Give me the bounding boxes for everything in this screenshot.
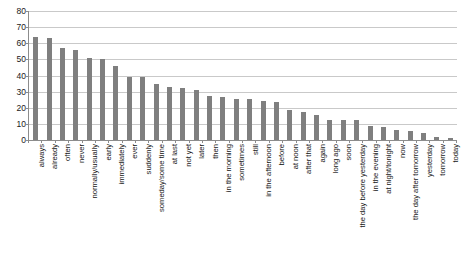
x-axis-label: normally/usually <box>91 144 99 198</box>
x-axis-label: in the afternoon <box>265 144 273 197</box>
bar <box>140 77 145 140</box>
bar <box>354 120 359 140</box>
x-axis-label: someday/some time <box>158 144 166 212</box>
bar <box>47 38 52 140</box>
x-axis-label: often <box>64 144 72 161</box>
x-tickmark <box>282 140 283 143</box>
bar <box>408 131 413 140</box>
x-axis-label: never <box>78 144 86 163</box>
x-tickmark <box>429 140 430 143</box>
x-axis-label: in the evening <box>372 144 380 191</box>
x-axis-label: today <box>452 144 460 163</box>
x-tickmark <box>28 140 29 143</box>
x-axis-label: sometimes <box>238 144 246 181</box>
bar <box>368 126 373 140</box>
bar <box>394 130 399 140</box>
bar <box>234 99 239 140</box>
y-axis-tick-labels: 01020304050607080 <box>0 11 26 140</box>
x-tickmark <box>403 140 404 143</box>
x-axis-label: long ago <box>332 144 340 173</box>
bars-layer <box>29 11 457 140</box>
x-axis-label: still <box>252 144 260 155</box>
x-axis-label: ever <box>131 144 139 159</box>
x-tickmark <box>55 140 56 143</box>
y-tick-label-50: 50 <box>0 55 26 64</box>
bar <box>73 50 78 140</box>
bar <box>167 87 172 140</box>
x-tickmark <box>162 140 163 143</box>
x-tickmark <box>242 140 243 143</box>
x-tickmark <box>41 140 42 143</box>
bar <box>180 88 185 140</box>
y-tick-label-30: 30 <box>0 88 26 97</box>
x-tickmark <box>389 140 390 143</box>
x-tickmark <box>376 140 377 143</box>
bar <box>154 84 159 140</box>
bar <box>207 96 212 140</box>
bar <box>261 101 266 140</box>
y-tick-label-20: 20 <box>0 104 26 113</box>
x-tickmark <box>82 140 83 143</box>
x-axis-label: then <box>212 144 220 159</box>
x-tickmark <box>362 140 363 143</box>
x-tickmark <box>95 140 96 143</box>
bar <box>60 48 65 140</box>
x-axis-label: again <box>319 144 327 163</box>
x-axis-label: in the morning <box>225 144 233 192</box>
bar <box>421 133 426 140</box>
x-tickmark <box>68 140 69 143</box>
y-tick-label-40: 40 <box>0 72 26 81</box>
y-tick-label-10: 10 <box>0 120 26 129</box>
bar <box>327 120 332 140</box>
bar <box>113 66 118 140</box>
x-tickmark <box>269 140 270 143</box>
x-tickmark <box>108 140 109 143</box>
bar <box>33 37 38 140</box>
x-tickmark <box>336 140 337 143</box>
bar <box>287 110 292 140</box>
chart-plot-wrapper: 01020304050607080 alwaysalreadyoftenneve… <box>0 0 466 261</box>
x-axis-label: early <box>105 144 113 160</box>
y-tick-label-0: 0 <box>0 136 26 145</box>
plot-area <box>28 11 457 140</box>
x-tickmark <box>443 140 444 143</box>
x-axis-label: not yet <box>185 144 193 167</box>
x-tickmark <box>148 140 149 143</box>
x-axis-label: after that <box>305 144 313 174</box>
x-tickmark <box>322 140 323 143</box>
bar <box>127 77 132 140</box>
bar <box>247 99 252 140</box>
bar <box>381 127 386 140</box>
x-axis-label: tomorrow <box>439 144 447 176</box>
x-tickmark <box>215 140 216 143</box>
x-axis-label: before <box>278 144 286 166</box>
x-tickmark <box>416 140 417 143</box>
bar <box>220 97 225 140</box>
bar <box>194 90 199 140</box>
x-tickmark <box>135 140 136 143</box>
bar <box>314 115 319 140</box>
x-tickmark <box>309 140 310 143</box>
x-axis-label: yesterday <box>426 144 434 177</box>
bar <box>100 59 105 140</box>
y-tick-label-80: 80 <box>0 7 26 16</box>
x-axis-label: suddenly <box>145 144 153 174</box>
x-tickmark <box>202 140 203 143</box>
x-axis-label: now <box>399 144 407 158</box>
x-axis-label: the day after tomorrow <box>412 144 420 220</box>
x-axis-label: immediately <box>118 144 126 185</box>
x-tickmark <box>296 140 297 143</box>
x-tickmark <box>349 140 350 143</box>
y-tick-label-70: 70 <box>0 23 26 32</box>
x-tickmark <box>456 140 457 143</box>
x-tickmark <box>175 140 176 143</box>
x-tickmark <box>229 140 230 143</box>
x-axis-category-labels: alwaysalreadyoftennevernormally/usuallye… <box>28 144 456 261</box>
bar <box>87 58 92 140</box>
x-axis-label: at night/tonight <box>385 144 393 194</box>
x-axis-label: later <box>198 144 206 159</box>
bar <box>301 112 306 140</box>
x-axis-label: the day before yesterday <box>359 144 367 228</box>
x-axis-label: soon <box>345 144 353 160</box>
x-axis-label: already <box>51 144 59 169</box>
